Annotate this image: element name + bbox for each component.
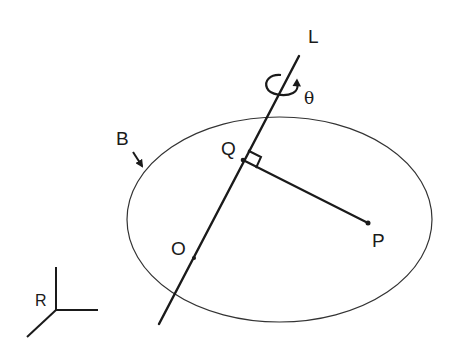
label-p: P [372,230,385,251]
label-body-b: B [116,128,129,149]
point-o-dot [192,256,196,260]
segment-qp [243,160,368,223]
label-axis-l: L [308,26,319,47]
point-p-dot [366,221,371,226]
body-b-pointer-arrow [133,152,142,166]
label-frame-r: R [35,292,47,309]
label-theta: θ [304,88,314,108]
label-q: Q [221,138,236,159]
point-q-dot [241,158,246,163]
label-o: O [171,238,186,259]
axis-l-line [159,56,299,324]
rigid-body-diagram: L θ B Q P O R [0,0,460,353]
body-b-ellipse [127,117,432,322]
